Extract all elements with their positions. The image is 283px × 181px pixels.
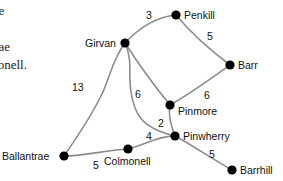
graph-node-barrhill[interactable] [227,165,236,174]
edge-weight-label: 4 [146,130,152,142]
edge-weight-label: 5 [209,148,215,160]
node-label-girvan: Girvan [85,37,116,49]
node-label-barrhill: Barrhill [240,164,273,176]
node-label-colmonell: Colmonell [104,155,151,167]
node-label-pinmore: Pinmore [178,105,217,117]
graph-node-penkill[interactable] [171,10,180,19]
edge-weight-label: 5 [93,159,99,171]
edge-weight-label: 6 [135,88,141,100]
edge-weight-label: 3 [146,9,152,21]
graph-node-pinmore[interactable] [165,100,174,109]
graph-edge [169,105,175,136]
node-label-pinwherry: Pinwherry [183,130,230,142]
graph-node-colmonell[interactable] [123,144,132,153]
node-label-ballantrae: Ballantrae [2,150,49,162]
graph-node-pinwherry[interactable] [170,131,179,140]
graph-edge [125,43,175,136]
figure-root: The es. ntrae lmonell. ng 3566245513Penk… [0,0,283,181]
node-label-penkill: Penkill [184,9,215,21]
graph-node-barr[interactable] [225,60,234,69]
graph-node-ballantrae[interactable] [59,151,68,160]
graph-edge [64,43,125,156]
graph-edge [176,15,230,65]
edge-weight-label: 2 [158,117,164,129]
graph-edge [170,65,230,105]
edge-weight-label: 6 [204,89,210,101]
edge-weight-label: 13 [72,81,84,93]
edge-weight-label: 5 [207,30,213,42]
graph-node-girvan[interactable] [120,38,129,47]
node-label-barr: Barr [238,59,258,71]
